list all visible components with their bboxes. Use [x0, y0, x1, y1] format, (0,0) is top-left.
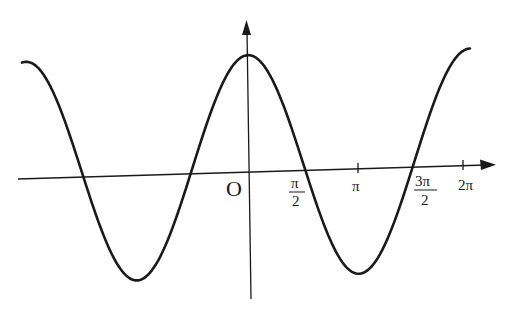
function-graph: O π 2 π 3π 2 2π	[0, 0, 510, 319]
tick-label-numerator: π	[291, 175, 299, 191]
y-axis-arrow-icon	[242, 20, 251, 35]
tick-label-pi-over-2: π 2	[289, 175, 305, 209]
tick-label-3pi-over-2: 3π 2	[414, 173, 437, 208]
tick-label-denominator: 2	[421, 192, 429, 208]
tick-label-2pi: 2π	[458, 177, 474, 193]
origin-label: O	[226, 176, 242, 201]
tick-label-pi: π	[352, 178, 360, 194]
tick-label-numerator: 3π	[415, 173, 431, 189]
x-axis-arrow-icon	[480, 160, 496, 171]
tick-label-denominator: 2	[292, 193, 300, 209]
y-axis	[247, 30, 251, 299]
cosine-curve	[22, 49, 470, 281]
